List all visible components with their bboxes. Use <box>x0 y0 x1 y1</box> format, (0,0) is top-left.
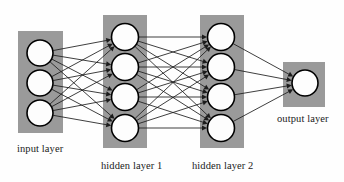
connection-line <box>138 101 204 122</box>
network-canvas: input layerhidden layer 1hidden layer 2o… <box>0 0 344 182</box>
neuron-hidden1-4 <box>112 115 139 142</box>
neuron-input-3 <box>27 100 53 126</box>
connections-group <box>50 34 293 130</box>
connection-hidden1-to-hidden2-0 <box>139 34 207 39</box>
neuron-hidden1-1 <box>112 24 139 51</box>
neuron-input-1 <box>27 40 53 66</box>
connection-hidden1-to-hidden2-15 <box>139 125 207 130</box>
neuron-hidden2-4 <box>208 115 235 142</box>
neuron-output-1 <box>292 70 318 96</box>
neuron-input-2 <box>27 70 53 96</box>
neuron-hidden1-2 <box>112 54 139 81</box>
neuron-hidden2-3 <box>208 84 235 111</box>
neuron-hidden2-1 <box>208 24 235 51</box>
layer-label-output: output layer <box>277 113 329 124</box>
neuron-hidden1-3 <box>112 84 139 111</box>
neural-network-diagram: input layerhidden layer 1hidden layer 2o… <box>0 0 344 182</box>
connection-line <box>138 42 204 63</box>
neuron-hidden2-2 <box>208 54 235 81</box>
layer-labels-group: input layerhidden layer 1hidden layer 2o… <box>17 113 329 171</box>
layer-label-hidden2: hidden layer 2 <box>192 160 253 171</box>
layer-label-hidden1: hidden layer 1 <box>101 160 162 171</box>
layer-label-input: input layer <box>17 143 64 154</box>
